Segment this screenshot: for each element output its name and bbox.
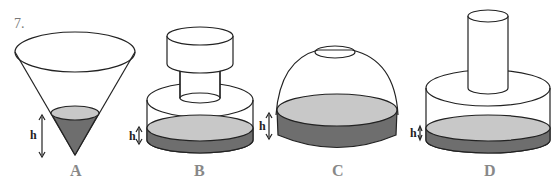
label-d: D [484,162,496,180]
container-a: h [15,32,135,157]
label-b: B [194,162,205,180]
label-c: C [332,162,344,180]
container-c: h [259,46,398,148]
svg-text:h: h [410,126,417,140]
svg-text:h: h [259,119,266,133]
containers-diagram: h h h [0,0,560,185]
svg-text:h: h [129,129,136,143]
container-b: h [129,27,253,153]
container-d: h [410,10,550,153]
label-a: A [70,162,82,180]
svg-text:h: h [30,128,37,142]
